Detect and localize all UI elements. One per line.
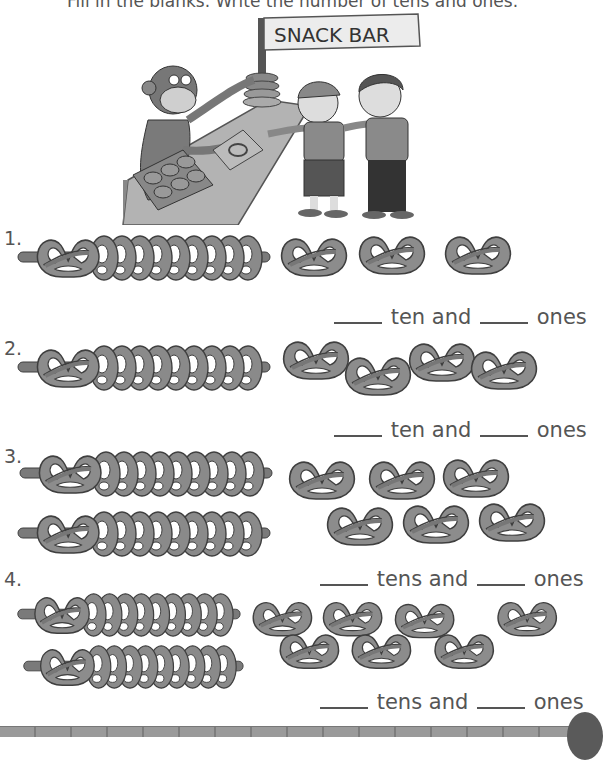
pretzel-stick-of-ten — [16, 232, 271, 284]
ones-blank[interactable] — [480, 308, 528, 324]
problem-4-number: 4. — [4, 568, 22, 590]
pretzel-stick-of-ten — [18, 448, 273, 500]
ones-blank[interactable] — [477, 570, 525, 586]
loose-pretzels — [250, 598, 570, 688]
problem-2-answer: ten and ones — [332, 418, 587, 442]
tens-blank[interactable] — [320, 693, 368, 709]
page-corner-tab — [567, 712, 603, 760]
pretzel-stick-of-ten — [22, 642, 244, 692]
loose-pretzels — [276, 232, 526, 282]
tens-blank[interactable] — [320, 570, 368, 586]
loose-pretzels — [278, 335, 548, 410]
loose-pretzels — [284, 455, 554, 555]
pretzel-stick-of-ten — [16, 590, 241, 640]
tens-blank[interactable] — [334, 421, 382, 437]
problem-3-answer: tens and ones — [318, 567, 584, 591]
tens-blank[interactable] — [334, 308, 382, 324]
problem-1-answer: ten and ones — [332, 305, 587, 329]
ones-blank[interactable] — [480, 421, 528, 437]
ones-blank[interactable] — [477, 693, 525, 709]
page-footer-border — [0, 726, 585, 737]
problem-4-answer: tens and ones — [318, 690, 584, 714]
sign-text: SNACK BAR — [274, 23, 390, 47]
pretzel-stick-of-ten — [16, 508, 271, 560]
pretzel-stick-of-ten — [16, 342, 271, 394]
snack-bar-illustration: SNACK BAR — [118, 10, 423, 225]
